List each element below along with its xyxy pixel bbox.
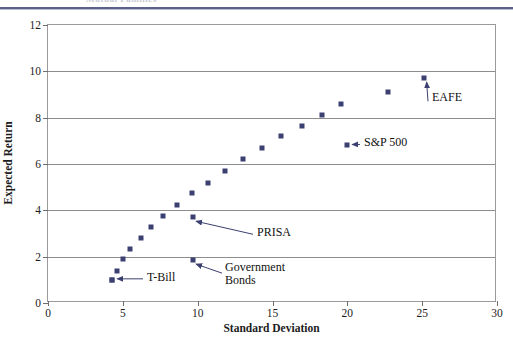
data-point-government-bonds <box>191 258 196 263</box>
data-point <box>189 190 194 195</box>
eafe-annotation-label: EAFE <box>432 91 462 104</box>
y-tick-label-10: 10 <box>30 65 42 77</box>
x-tick-25 <box>422 301 423 306</box>
prisa-annotation-label: PRISA <box>257 226 291 239</box>
y-tick-10 <box>43 71 48 72</box>
data-point <box>174 202 179 207</box>
data-point <box>114 268 119 273</box>
x-tick-0 <box>48 301 49 306</box>
x-tick-label-10: 10 <box>192 307 204 319</box>
data-point-s-p-500 <box>345 143 350 148</box>
x-tick-label-15: 15 <box>267 307 279 319</box>
y-axis-title: Expected Return <box>2 121 14 204</box>
data-point <box>240 157 245 162</box>
gov-bonds-line2: Bonds <box>225 273 256 287</box>
x-tick-20 <box>347 301 348 306</box>
data-point <box>138 236 143 241</box>
gridline-y-2 <box>48 257 495 258</box>
y-tick-12 <box>43 25 48 26</box>
data-point <box>128 246 133 251</box>
x-tick-label-30: 30 <box>491 307 503 319</box>
data-point <box>161 214 166 219</box>
gov-bonds-line1: Government <box>225 260 285 274</box>
data-point <box>120 256 125 261</box>
x-tick-label-0: 0 <box>45 307 51 319</box>
x-tick-10 <box>198 301 199 306</box>
chart-page: Mutual Families 024681012051015202530 St… <box>0 0 513 349</box>
x-tick-5 <box>123 301 124 306</box>
data-point <box>319 113 324 118</box>
data-point <box>206 180 211 185</box>
gov-bonds-annotation-label: Government Bonds <box>225 261 303 287</box>
header-rule-thin <box>0 9 513 10</box>
data-point <box>260 145 265 150</box>
t-bill-annotation-label: T-Bill <box>147 271 175 284</box>
data-point-prisa <box>191 215 196 220</box>
x-tick-15 <box>273 301 274 306</box>
x-tick-30 <box>497 301 498 306</box>
data-point-t-bill <box>110 277 115 282</box>
x-tick-label-20: 20 <box>342 307 354 319</box>
gridline-y-4 <box>48 210 495 211</box>
gridline-y-6 <box>48 164 495 165</box>
gridline-y-8 <box>48 118 495 119</box>
y-tick-label-4: 4 <box>35 204 41 216</box>
x-tick-label-25: 25 <box>416 307 428 319</box>
data-point <box>222 168 227 173</box>
data-point <box>149 224 154 229</box>
x-axis-title: Standard Deviation <box>47 322 496 334</box>
y-tick-6 <box>43 164 48 165</box>
data-point-eafe <box>421 76 426 81</box>
gridline-y-10 <box>48 71 495 72</box>
data-point <box>339 101 344 106</box>
data-point <box>279 134 284 139</box>
y-tick-label-2: 2 <box>35 251 41 263</box>
y-tick-4 <box>43 210 48 211</box>
sp500-annotation-label: S&P 500 <box>364 136 407 149</box>
y-tick-8 <box>43 118 48 119</box>
data-point <box>385 90 390 95</box>
y-tick-label-12: 12 <box>30 19 42 31</box>
y-tick-2 <box>43 257 48 258</box>
y-tick-label-6: 6 <box>35 158 41 170</box>
x-tick-label-5: 5 <box>120 307 126 319</box>
y-tick-label-0: 0 <box>35 297 41 309</box>
data-point <box>300 123 305 128</box>
y-tick-label-8: 8 <box>35 112 41 124</box>
page-header-text: Mutual Families <box>86 0 157 4</box>
